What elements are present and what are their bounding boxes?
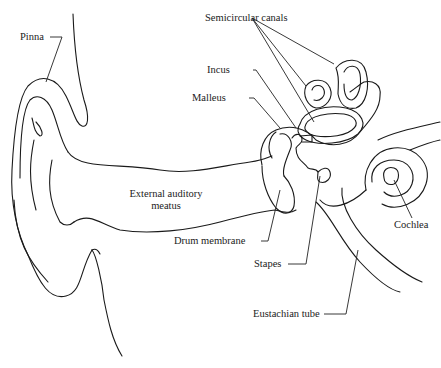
semicircular-canals-shape	[298, 60, 368, 143]
label-drum-membrane: Drum membrane	[174, 235, 245, 247]
label-external-meatus-line2: meatus	[118, 200, 214, 212]
label-malleus: Malleus	[192, 92, 226, 104]
label-semicircular-canals: Semicircular canals	[205, 12, 288, 24]
cochlea-shape	[320, 122, 440, 207]
label-external-meatus-line1: External auditory	[118, 188, 214, 200]
ear-illustration	[0, 0, 441, 368]
label-external-auditory-meatus: External auditory meatus	[118, 188, 214, 212]
label-cochlea: Cochlea	[394, 219, 428, 231]
label-stapes: Stapes	[254, 258, 281, 270]
label-eustachian-tube: Eustachian tube	[253, 308, 320, 320]
label-incus: Incus	[207, 64, 230, 76]
eustachian-tube-shape	[316, 188, 422, 292]
ear-diagram: Pinna Semicircular canals Incus Malleus …	[0, 0, 441, 368]
leader-lines	[46, 18, 412, 314]
pinna-shape	[12, 14, 122, 356]
label-pinna: Pinna	[20, 31, 44, 43]
